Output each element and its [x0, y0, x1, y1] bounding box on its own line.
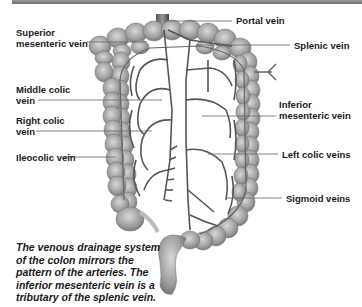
- label-line: Right colic: [16, 115, 65, 126]
- caption-line: pattern of the arteries. The: [16, 266, 166, 279]
- caption-line: The venous drainage system: [16, 241, 166, 254]
- label-line: Superior: [16, 27, 55, 38]
- label-line: Middle colic: [16, 84, 70, 95]
- caption-line: inferior mesenteric vein is a: [16, 279, 166, 292]
- label-line: mesenteric vein: [279, 110, 351, 121]
- label-inferior-mesenteric-vein: Inferior mesenteric vein: [279, 99, 351, 121]
- label-line: vein: [16, 95, 35, 106]
- label-splenic-vein: Splenic vein: [294, 40, 349, 51]
- label-line: vein: [16, 126, 35, 137]
- label-portal-vein: Portal vein: [236, 15, 285, 26]
- label-right-colic-vein: Right colic vein: [16, 115, 65, 137]
- label-sigmoid-veins: Sigmoid veins: [286, 193, 350, 204]
- label-ileocolic-vein: Ileocolic vein: [16, 152, 76, 163]
- label-middle-colic-vein: Middle colic vein: [16, 84, 70, 106]
- caption-line: of the colon mirrors the: [16, 254, 166, 267]
- diagram-caption: The venous drainage system of the colon …: [16, 241, 166, 304]
- label-superior-mesenteric-vein: Superior mesenteric vein: [16, 27, 88, 49]
- label-left-colic-veins: Left colic veins: [282, 149, 351, 160]
- label-line: mesenteric vein: [16, 38, 88, 49]
- label-line: Inferior: [279, 99, 312, 110]
- caption-line: tributary of the splenic vein.: [16, 291, 166, 304]
